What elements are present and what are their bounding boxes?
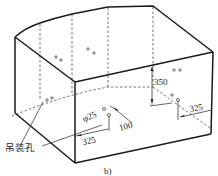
hidden-lines bbox=[12, 7, 210, 128]
dim-350: 350 bbox=[154, 77, 168, 87]
isometric-box-diagram: 350 325 φ25 100 325 吊装孔 b) bbox=[0, 0, 218, 176]
figure-caption: b) bbox=[104, 166, 112, 176]
dimension-lines bbox=[20, 67, 212, 146]
dim-phi25: φ25 bbox=[81, 109, 98, 124]
dim-100: 100 bbox=[118, 120, 134, 133]
box-edges bbox=[15, 6, 213, 163]
dim-325-front: 325 bbox=[81, 134, 97, 147]
lifting-hole-label: 吊装孔 bbox=[5, 142, 35, 153]
